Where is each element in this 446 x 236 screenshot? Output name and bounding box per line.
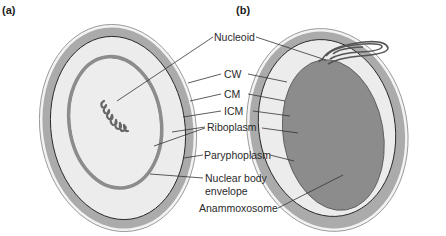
label-paryphoplasm: Paryphoplasm xyxy=(204,149,271,161)
label-nuclear-body-line1: Nuclear body xyxy=(205,172,268,184)
label-icm: ICM xyxy=(224,105,243,117)
label-cw: CW xyxy=(224,68,242,80)
label-nuclear-body-line2: envelope xyxy=(205,185,248,197)
panel-label-a: (a) xyxy=(2,4,16,16)
panel-label-b: (b) xyxy=(236,4,250,16)
label-anammoxosome: Anammoxosome xyxy=(199,202,278,214)
cell-a xyxy=(26,14,209,236)
label-nucleoid: Nucleoid xyxy=(214,31,255,43)
label-riboplasm: Riboplasm xyxy=(207,121,257,133)
cell-structure-diagram: (a) (b) xyxy=(0,0,446,236)
label-cm: CM xyxy=(224,88,240,100)
